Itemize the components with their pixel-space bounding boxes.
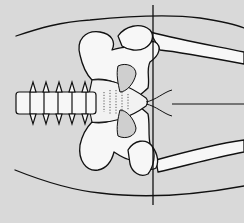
pubic-line-lower [146,104,172,116]
upper-femoral-head [118,26,152,50]
lower-femoral-head [128,141,154,175]
lumbar-spine [16,82,96,124]
lower-femur [156,140,244,172]
pelvis-drawing [0,0,244,223]
pelvis-illustration [0,0,244,223]
body-outline-bottom [15,170,244,196]
pubic-line-upper [146,90,172,102]
upper-femur [150,32,244,64]
